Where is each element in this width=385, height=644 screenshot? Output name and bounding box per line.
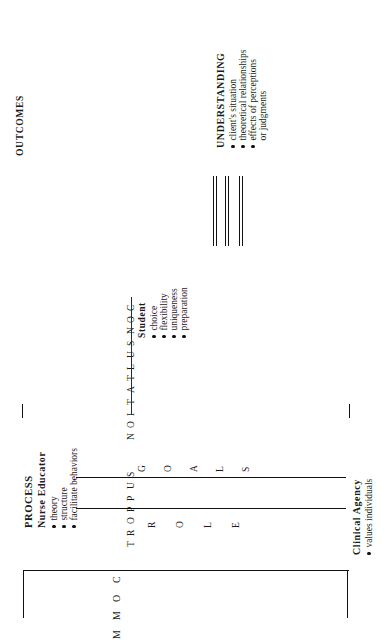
- outcomes-item-0-label: client's situation: [228, 79, 238, 141]
- outcomes-heading-understanding: UNDERSTANDING: [216, 53, 226, 148]
- communication-bracket-left: [23, 570, 24, 618]
- section-title-outcomes: OUTCOMES: [16, 95, 26, 156]
- nurse-educator-item-2: facilitate behaviors: [70, 448, 80, 528]
- process-top-tick: [22, 404, 23, 418]
- bullet-icon: [367, 552, 370, 555]
- goals-letter-4: S: [242, 467, 252, 472]
- nurse-educator-item-1-label: structure: [59, 487, 69, 520]
- communication-bracket-top: [23, 570, 348, 571]
- student-heading: Student: [138, 302, 148, 338]
- bullet-icon: [72, 525, 75, 528]
- clinical-agency-top-tick: [349, 404, 350, 418]
- consultation-letter-11: N: [127, 433, 137, 440]
- role-rule: [76, 508, 346, 509]
- student-item-3-label: preparation: [179, 287, 189, 330]
- student-item-0-label: choice: [149, 306, 159, 331]
- connector-bar-1a: [213, 176, 214, 246]
- connector-bar-2a: [225, 176, 226, 246]
- student-item-2-label: uniqueness: [169, 288, 179, 330]
- outcomes-item-3: or judgments: [259, 91, 269, 148]
- connector-bar-3b: [242, 176, 243, 246]
- student-item-3: preparation: [180, 287, 190, 338]
- diagram-canvas: OUTCOMES UNDERSTANDING client's situatio…: [0, 0, 385, 644]
- goals-letter-1: O: [164, 465, 174, 472]
- outcomes-item-1-label: theoretical relationships: [238, 50, 248, 141]
- support-letter-2: P: [127, 495, 137, 500]
- section-title-process: PROCESS: [24, 475, 35, 528]
- goals-letter-3: L: [216, 466, 226, 472]
- support-letter-6: T: [127, 542, 137, 548]
- bullet-icon: [162, 335, 165, 338]
- nurse-educator-item-0-label: theory: [49, 496, 59, 520]
- bullet-icon: [52, 525, 55, 528]
- support-letter-1: U: [127, 482, 137, 489]
- outcomes-item-3-label: or judgments: [258, 91, 268, 141]
- clinical-agency-heading: Clinical Agency: [352, 479, 362, 555]
- communication-bracket-right: [347, 570, 348, 618]
- bullet-icon: [251, 145, 254, 148]
- nurse-educator-heading: Nurse Educator: [37, 452, 47, 528]
- connector-bar-2b: [228, 176, 229, 246]
- goals-letter-0: G: [138, 465, 148, 472]
- consultation-letter-10: O: [127, 421, 137, 428]
- bullet-icon: [172, 335, 175, 338]
- support-vertical-rule: [131, 297, 132, 415]
- role-letter-2: L: [204, 522, 214, 528]
- connector-bar-3a: [239, 176, 240, 246]
- communication-letter-1: O: [112, 594, 122, 601]
- communication-letter-3: M: [112, 630, 122, 639]
- support-letter-5: R: [127, 529, 137, 535]
- communication-letter-2: M: [112, 611, 122, 620]
- nurse-educator-item-2-label: facilitate behaviors: [69, 448, 79, 521]
- communication-letter-0: C: [112, 576, 122, 583]
- bullet-icon: [241, 145, 244, 148]
- bullet-icon: [152, 335, 155, 338]
- bullet-icon: [231, 145, 234, 148]
- student-item-1-label: flexibility: [159, 293, 169, 330]
- goals-rule: [76, 477, 346, 478]
- support-letter-4: O: [127, 517, 137, 524]
- role-letter-3: E: [232, 522, 242, 528]
- role-letter-0: R: [148, 522, 158, 528]
- outcomes-item-2-label: effects of perceptions: [248, 59, 258, 141]
- role-letter-1: O: [176, 521, 186, 528]
- connector-bar-1b: [216, 176, 217, 246]
- goals-letter-2: A: [190, 465, 200, 472]
- clinical-agency-item-0: values individuals: [365, 479, 375, 555]
- clinical-agency-item-0-label: values individuals: [364, 479, 374, 548]
- bullet-icon: [182, 335, 185, 338]
- bullet-icon: [62, 525, 65, 528]
